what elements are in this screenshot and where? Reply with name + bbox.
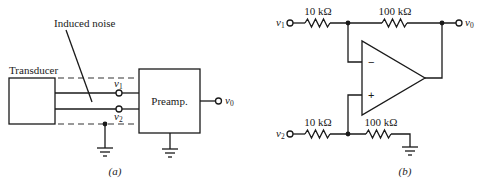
label-v0-a: v0 <box>225 94 234 108</box>
figure-b: v1 10 kΩ 100 kΩ v0 − + v2 10 kΩ <box>276 5 474 178</box>
resistor-r1 <box>305 19 330 27</box>
wire-inverting-input <box>348 23 362 62</box>
r2-label: 10 kΩ <box>304 116 331 128</box>
minus-sign: − <box>368 56 374 68</box>
transducer-label: Transducer <box>9 64 58 76</box>
wire-noninverting-input <box>348 95 362 134</box>
resistor-r2 <box>305 130 330 138</box>
ground-icon <box>97 148 113 156</box>
wire-r3-to-ground <box>391 134 410 147</box>
induced-noise-label: Induced noise <box>54 17 116 29</box>
node-noninverting <box>346 132 351 137</box>
caption-b: (b) <box>399 165 412 178</box>
terminal-v1-b <box>287 20 293 26</box>
terminal-v0-a <box>216 98 222 104</box>
label-v0-b: v0 <box>465 16 474 30</box>
rf-label: 100 kΩ <box>379 5 412 17</box>
caption-a: (a) <box>109 165 122 178</box>
preamp-label: Preamp. <box>151 95 188 107</box>
label-v1-b: v1 <box>276 16 285 30</box>
ground-icon <box>402 147 418 155</box>
label-v2-a: v2 <box>114 110 123 124</box>
r3-label: 100 kΩ <box>365 116 398 128</box>
induced-noise-pointer <box>66 30 92 102</box>
circuit-figure: Transducer v1 v2 Induced noise Preamp <box>0 0 478 183</box>
terminal-v0-b <box>456 20 462 26</box>
label-v2-b: v2 <box>276 127 285 141</box>
terminal-v2-b <box>287 131 293 137</box>
r1-label: 10 kΩ <box>304 5 331 17</box>
resistor-r3 <box>366 130 391 138</box>
resistor-rf <box>382 19 407 27</box>
op-amp-triangle <box>362 41 425 115</box>
plus-sign: + <box>368 89 374 101</box>
label-v1-a: v1 <box>114 77 123 91</box>
wire-output-feedback <box>425 23 442 78</box>
ground-icon <box>162 149 178 157</box>
transducer-box <box>9 78 55 124</box>
figure-a: Transducer v1 v2 Induced noise Preamp <box>9 17 234 178</box>
